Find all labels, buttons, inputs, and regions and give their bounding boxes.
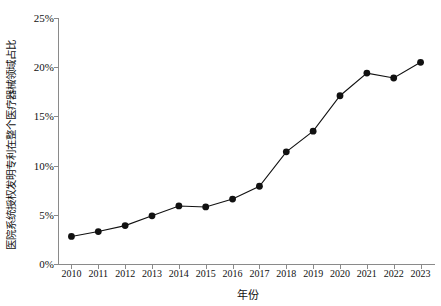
x-tick-mark [421,265,422,269]
x-tick-label: 2012 [115,268,135,279]
x-tick-label: 2016 [223,268,243,279]
y-axis-title: 医院系统授权发明专利在整个医疗器械领域占比 [6,29,18,261]
data-point [229,196,236,203]
x-tick-label: 2014 [169,268,189,279]
y-tick-label: 15% [34,110,54,122]
data-point [390,75,397,82]
x-tick-label: 2023 [411,268,431,279]
series-polyline [71,62,420,236]
x-tick-label: 2021 [357,268,377,279]
x-tick-label: 2011 [88,268,108,279]
data-point [149,212,156,219]
y-tick-mark [54,18,58,19]
y-tick-mark [54,116,58,117]
x-tick-label: 2013 [142,268,162,279]
data-point [337,92,344,99]
y-tick-mark [54,264,58,265]
data-point [95,228,102,235]
plot-area [58,18,434,264]
data-point [68,233,75,240]
x-tick-mark [367,265,368,269]
x-tick-mark [340,265,341,269]
x-tick-label: 2010 [61,268,81,279]
series-markers [68,59,424,240]
x-tick-mark [259,265,260,269]
cropped-top-text: —— ——— — —— ——— —— [0,0,441,6]
y-tick-label: 10% [34,160,54,172]
data-point [256,183,263,190]
y-tick-label: 0% [39,258,54,270]
y-tick-label: 25% [34,12,54,24]
data-point [122,222,129,229]
data-point [417,59,424,66]
x-tick-label: 2019 [303,268,323,279]
data-point [310,128,317,135]
x-tick-mark [71,265,72,269]
y-tick-mark [54,67,58,68]
x-tick-label: 2017 [249,268,269,279]
line-series [58,18,434,264]
x-tick-mark [313,265,314,269]
y-tick-mark [54,215,58,216]
x-tick-mark [233,265,234,269]
y-tick-mark [54,166,58,167]
x-axis-line [58,264,435,265]
y-tick-label: 5% [39,209,54,221]
x-tick-mark [152,265,153,269]
data-point [363,70,370,77]
x-tick-mark [179,265,180,269]
chart-figure: —— ——— — —— ——— —— 0%5%10%15%20%25% 医院系统… [0,0,441,306]
x-tick-label: 2022 [384,268,404,279]
data-point [283,148,290,155]
x-tick-label: 2015 [196,268,216,279]
x-tick-mark [394,265,395,269]
y-tick-label: 20% [34,61,54,73]
x-tick-label: 2018 [276,268,296,279]
x-tick-label: 2020 [330,268,350,279]
data-point [175,203,182,210]
x-axis-title: 年份 [58,286,438,302]
x-tick-mark [125,265,126,269]
x-tick-mark [286,265,287,269]
x-tick-mark [206,265,207,269]
x-tick-mark [98,265,99,269]
data-point [202,204,209,211]
